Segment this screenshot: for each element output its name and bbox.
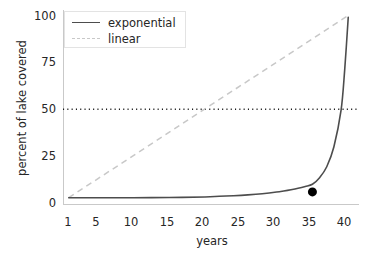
x-tick-label: 20 (182, 215, 222, 229)
y-tick-label: 25 (26, 150, 56, 162)
x-tick-label: 40 (324, 215, 364, 229)
x-axis-label: years (62, 234, 362, 248)
chart-legend: exponential linear (64, 11, 186, 48)
y-tick-label: 50 (26, 103, 56, 115)
highlight-marker-dot (308, 187, 317, 196)
x-tick-label: 30 (253, 215, 293, 229)
x-tick-label: 25 (218, 215, 258, 229)
chart-figure: percent of lake covered 100 75 50 25 0 1… (0, 0, 368, 260)
x-tick-label: 15 (147, 215, 187, 229)
y-tick-label: 0 (26, 197, 56, 209)
legend-item-linear: linear (65, 31, 187, 47)
x-tick-label: 35 (289, 215, 329, 229)
x-tick-label: 5 (76, 215, 116, 229)
x-tick-label: 10 (111, 215, 151, 229)
x-axis-ticks: 1 5 10 15 20 25 30 35 40 (0, 215, 368, 231)
y-tick-label: 75 (26, 56, 56, 68)
legend-swatch-dashed-icon (72, 33, 100, 45)
legend-label: linear (108, 32, 141, 46)
y-tick-label: 100 (26, 10, 56, 22)
legend-swatch-solid-icon (72, 17, 100, 29)
legend-label: exponential (108, 16, 176, 30)
legend-item-exponential: exponential (65, 15, 187, 31)
